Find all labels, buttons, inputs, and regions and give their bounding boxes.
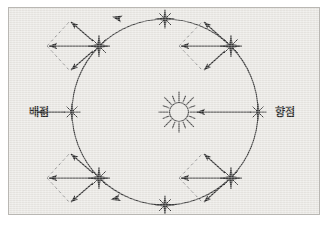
figure-frame: 배점 향점 <box>8 7 320 215</box>
component-arrow-up <box>71 22 93 41</box>
orbit-direction-arrows <box>110 13 123 203</box>
figure-root: 배점 향점 <box>0 0 328 225</box>
component-arrow-up <box>71 154 93 173</box>
component-arrow-down <box>204 51 225 70</box>
component-arrow-down <box>204 183 225 202</box>
sun-rays <box>159 92 200 133</box>
antapex-label: 배점 <box>29 105 49 119</box>
component-arrow-up <box>204 154 225 173</box>
star-top <box>156 10 175 29</box>
star-bottom <box>156 196 175 215</box>
star-right <box>250 104 267 121</box>
apex-label: 향점 <box>275 105 295 119</box>
star-left <box>64 104 81 121</box>
component-arrow-up <box>204 22 225 41</box>
sun-icon <box>159 92 200 133</box>
sun-core <box>170 103 189 122</box>
vector-group-upper-right <box>179 21 225 71</box>
component-arrow-down <box>71 183 93 202</box>
vector-group-lower-right <box>179 153 225 203</box>
component-arrow-down <box>71 51 93 70</box>
aberration-diagram: 배점 향점 <box>9 8 319 214</box>
orbit-direction-arrow-top <box>111 13 122 22</box>
orbit-direction-arrow-bottom <box>110 194 121 203</box>
